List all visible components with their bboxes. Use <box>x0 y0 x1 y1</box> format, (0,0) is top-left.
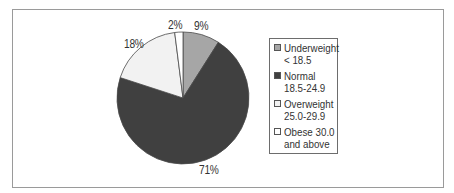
legend-overweight-line2: 25.0-29.9 <box>284 110 333 122</box>
legend-normal-line2: 18.5-24.9 <box>284 82 325 94</box>
legend-item-normal: Normal 18.5-24.9 <box>274 70 337 98</box>
label-normal-pct: 71% <box>199 163 219 177</box>
legend: Underweight < 18.5 Normal 18.5-24.9 Over… <box>269 38 338 154</box>
swatch-obese <box>274 128 281 135</box>
legend-obese-line1: Obese 30.0 <box>284 126 335 138</box>
label-underweight-pct: 9% <box>194 19 208 33</box>
pie-chart <box>0 0 454 193</box>
legend-normal-line1: Normal <box>284 70 325 82</box>
swatch-underweight <box>274 44 281 51</box>
legend-item-overweight: Overweight 25.0-29.9 <box>274 98 337 126</box>
legend-overweight-line1: Overweight <box>284 98 333 110</box>
legend-item-underweight: Underweight < 18.5 <box>274 42 337 70</box>
swatch-overweight <box>274 100 281 107</box>
legend-underweight-line2: < 18.5 <box>284 54 339 66</box>
label-overweight-pct: 18% <box>124 37 144 51</box>
legend-item-obese: Obese 30.0 and above <box>274 126 337 154</box>
swatch-normal <box>274 72 281 79</box>
label-obese-pct: 2% <box>168 18 182 32</box>
legend-obese-line2: and above <box>284 138 335 150</box>
legend-underweight-line1: Underweight <box>284 42 339 54</box>
